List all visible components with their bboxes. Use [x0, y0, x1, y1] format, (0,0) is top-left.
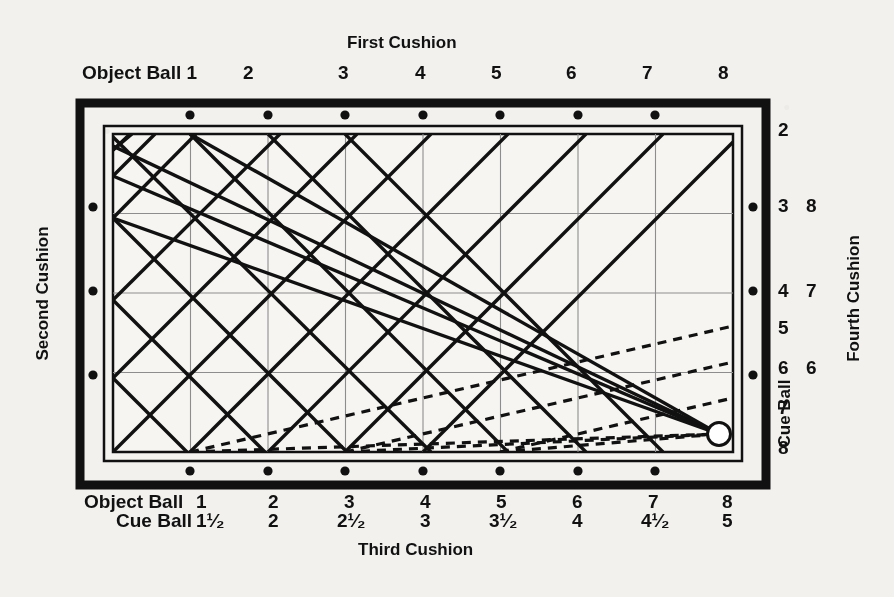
diagram-stage: First Cushion Object Ball 1 2 3 4 5 6 7 …	[0, 0, 894, 597]
paper-texture-overlay	[0, 0, 894, 597]
